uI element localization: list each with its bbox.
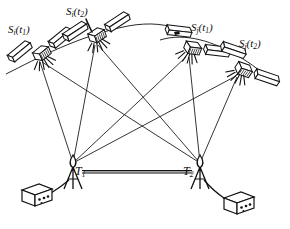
label-station-t1: T1	[75, 165, 85, 178]
sight-line-si-t1-to-T2	[42, 62, 200, 163]
baseline	[82, 171, 192, 174]
sight-lines	[40, 45, 237, 163]
sight-line-sj-t2-to-T1	[73, 76, 236, 163]
sight-line-sj-t1-to-T2	[189, 57, 200, 163]
label-station-t2: T2	[183, 165, 193, 178]
cable-t1	[51, 180, 69, 193]
station-t1	[22, 155, 82, 206]
cable-t2	[204, 180, 224, 198]
receiver-box-t1	[22, 184, 52, 206]
label-satellite-sj-t2: Sj(t2)	[239, 38, 261, 50]
sight-line-si-t2-to-T2	[98, 45, 200, 163]
receiver-box-t2	[224, 192, 254, 214]
label-satellite-sj-t1: Sj(t1)	[191, 22, 213, 34]
sight-line-sj-t2-to-T2	[200, 77, 237, 163]
station-t2	[191, 155, 254, 214]
label-satellite-si-t2: Si(t2)	[66, 6, 88, 18]
label-satellite-si-t1: Si(t1)	[8, 24, 30, 36]
sight-line-si-t1-to-T1	[40, 62, 73, 163]
satellite-geometry-diagram	[0, 0, 290, 229]
